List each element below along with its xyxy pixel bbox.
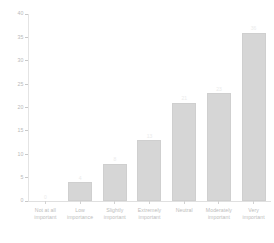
x-axis-tick-label: Very important <box>243 207 265 223</box>
bar-rect[interactable] <box>207 93 231 201</box>
y-axis-tick: 40 <box>18 9 28 19</box>
bar[interactable]: 36 <box>242 33 266 201</box>
y-axis-tick: 35 <box>18 32 28 42</box>
x-axis-tick-label: Low importance <box>67 207 93 223</box>
y-axis-tick-label: 0 <box>21 198 24 203</box>
x-axis-tick-mark <box>80 201 81 204</box>
bar-slot: 23 <box>202 14 237 201</box>
bar-value-label: 23 <box>216 87 222 92</box>
x-axis-tick-mark <box>114 201 115 204</box>
bar-value-label: 0 <box>44 195 47 200</box>
bar-rect[interactable] <box>68 182 92 201</box>
x-axis-tick: Very important <box>236 201 271 243</box>
bar-rect[interactable] <box>242 33 266 201</box>
x-axis-tick-mark <box>253 201 254 204</box>
x-axis-tick: Slightly important <box>97 201 132 243</box>
x-axis-tick-mark <box>218 201 219 204</box>
bar-value-label: 13 <box>147 134 153 139</box>
x-axis-tick: Neutral <box>167 201 202 243</box>
bar-slot: 0 <box>28 14 63 201</box>
bar-value-label: 4 <box>79 176 82 181</box>
bar-value-label: 36 <box>251 26 257 31</box>
x-axis-tick: Not at all important <box>28 201 63 243</box>
x-axis-tick: Low importance <box>63 201 98 243</box>
x-axis-tick: Extremely important <box>132 201 167 243</box>
x-axis: Not at all importantLow importanceSlight… <box>28 201 271 243</box>
y-axis-tick: 10 <box>18 149 28 159</box>
y-axis-tick-label: 15 <box>18 128 24 133</box>
y-axis-tick-label: 25 <box>18 82 24 87</box>
y-axis-tick: 15 <box>18 126 28 136</box>
bar[interactable]: 21 <box>172 103 196 201</box>
y-axis-tick-label: 30 <box>18 58 24 63</box>
bar-rect[interactable] <box>137 140 161 201</box>
x-axis-tick-mark <box>45 201 46 204</box>
x-axis-tick-label: Neutral <box>176 207 193 215</box>
y-axis-tick-label: 20 <box>18 105 24 110</box>
bar-slot: 13 <box>132 14 167 201</box>
y-axis-tick: 30 <box>18 56 28 66</box>
y-axis-tick-label: 40 <box>18 11 24 16</box>
bar[interactable]: 4 <box>68 182 92 201</box>
y-axis-tick-label: 10 <box>18 152 24 157</box>
y-axis-tick: 20 <box>18 103 28 113</box>
bar-value-label: 8 <box>113 157 116 162</box>
bar[interactable]: 13 <box>137 140 161 201</box>
plot-area: 04813212336 <box>28 14 271 201</box>
y-axis-tick: 25 <box>18 79 28 89</box>
bar-value-label: 21 <box>181 96 187 101</box>
bar-slot: 8 <box>97 14 132 201</box>
x-axis-tick-label: Moderately important <box>206 207 232 223</box>
x-axis-tick-label: Extremely important <box>138 207 162 223</box>
bar-slot: 21 <box>167 14 202 201</box>
bar[interactable]: 23 <box>207 93 231 201</box>
bar[interactable]: 8 <box>103 164 127 201</box>
bar-slot: 4 <box>63 14 98 201</box>
bar-rect[interactable] <box>172 103 196 201</box>
x-axis-tick-label: Not at all important <box>34 207 56 223</box>
y-axis: 0510152025303540 <box>0 0 28 243</box>
bar-rect[interactable] <box>103 164 127 201</box>
x-axis-tick-label: Slightly important <box>104 207 126 223</box>
bar-chart: 0510152025303540 04813212336 Not at all … <box>0 0 274 243</box>
x-axis-tick-mark <box>184 201 185 204</box>
x-axis-tick: Moderately important <box>202 201 237 243</box>
y-axis-tick-label: 5 <box>21 175 24 180</box>
y-axis-tick-label: 35 <box>18 35 24 40</box>
x-axis-tick-mark <box>149 201 150 204</box>
bar-slot: 36 <box>236 14 271 201</box>
